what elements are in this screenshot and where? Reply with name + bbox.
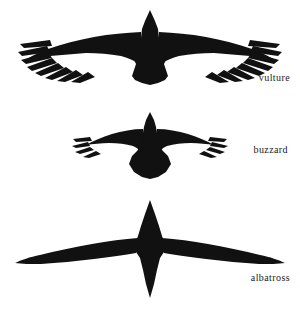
bird-label-buzzard: buzzard <box>0 144 288 155</box>
albatross-silhouette-icon <box>14 198 286 304</box>
bird-row-vulture: vulture <box>0 0 300 104</box>
bird-row-albatross: albatross <box>0 190 300 312</box>
bird-silhouette-figure: vulture <box>0 0 300 312</box>
bird-row-buzzard: buzzard <box>0 104 300 190</box>
bird-label-albatross: albatross <box>0 272 290 283</box>
bird-label-vulture: vulture <box>0 72 290 83</box>
